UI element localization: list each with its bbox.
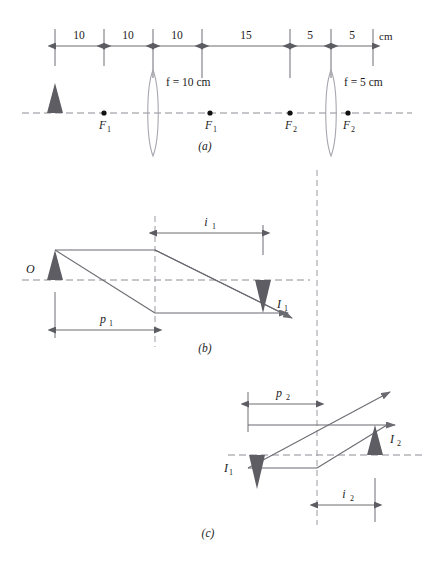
focal-point-dot-1	[101, 110, 106, 115]
image-1-label-sub: 1	[229, 468, 233, 477]
optics-figure: 10 10 10 15 5 5 cm f = 10 cm f = 5 cm	[0, 0, 434, 566]
image-1-label-sub: 1	[284, 304, 288, 313]
panel-a-label: (a)	[198, 140, 212, 153]
focal-point-dot-3	[287, 110, 292, 115]
i2-label-sub: 2	[350, 494, 354, 503]
focal-label-sub: 1	[213, 125, 217, 134]
image-1-triangle-b	[255, 280, 271, 313]
p2-label-base: p	[275, 386, 282, 400]
scale-label-2: 10	[122, 29, 134, 41]
scale-label-3: 10	[171, 29, 183, 41]
scale-bar: 10 10 10 15 5 5 cm	[55, 29, 393, 78]
image-2-label-c: I 2	[389, 432, 401, 448]
focal-label-sub: 2	[351, 125, 355, 134]
image-1-triangle-c	[249, 455, 265, 489]
p1-label-base: p	[99, 312, 106, 326]
panel-c: p 2 I 1 I 2	[202, 386, 424, 540]
focal-point-label-3: F 2	[284, 119, 297, 134]
i2-label: i 2	[342, 487, 354, 503]
lens-1-focal-label: f = 10 cm	[166, 76, 211, 88]
image-2-label-base: I	[389, 432, 395, 446]
image-2-label-sub: 2	[397, 439, 401, 448]
ray-chief-incident	[55, 250, 155, 313]
panel-c-label: (c)	[202, 527, 215, 540]
ray-c-diagonal-through-center	[248, 392, 390, 468]
p1-label: p 1	[99, 312, 113, 328]
panel-b: i 1 O I 1 p	[22, 215, 310, 355]
panel-b-label: (b)	[198, 342, 212, 355]
i1-label-base: i	[204, 215, 207, 229]
scale-label-1: 10	[73, 29, 85, 41]
scale-label-4: 15	[240, 29, 252, 41]
object-label-b: O	[26, 262, 35, 276]
focal-point-label-1: F 1	[98, 119, 111, 134]
focal-label-sub: 1	[107, 125, 111, 134]
focal-point-dot-4	[345, 110, 350, 115]
focal-label-base: F	[204, 119, 213, 131]
object-triangle-a	[47, 83, 63, 113]
focal-point-label-2: F 1	[204, 119, 217, 134]
image-1-label-c: I 1	[223, 461, 233, 477]
focal-point-label-4: F 2	[342, 119, 355, 134]
scale-label-5: 5	[307, 29, 313, 41]
focal-label-sub: 2	[293, 125, 297, 134]
i1-label-sub: 1	[212, 222, 216, 231]
focal-label-base: F	[342, 119, 351, 131]
i1-label: i 1	[204, 215, 216, 231]
focal-point-dot-2	[207, 110, 212, 115]
p1-label-sub: 1	[109, 319, 113, 328]
panel-a: f = 10 cm f = 5 cm F 1 F 1 F 2	[22, 70, 412, 156]
focal-label-base: F	[98, 119, 107, 131]
figure-canvas: 10 10 10 15 5 5 cm f = 10 cm f = 5 cm	[0, 0, 434, 566]
image-1-label-base: I	[276, 297, 282, 311]
p2-label-sub: 2	[286, 393, 290, 402]
p2-label: p 2	[275, 386, 290, 402]
lens-2-focal-label: f = 5 cm	[344, 76, 383, 88]
scale-label-6: 5	[349, 29, 355, 41]
scale-unit-label: cm	[379, 30, 393, 42]
i2-label-base: i	[342, 487, 345, 501]
focal-label-base: F	[284, 119, 293, 131]
object-triangle-b	[47, 250, 63, 280]
ray-refracted-extended	[155, 250, 292, 318]
image-1-label-b: I 1	[276, 297, 288, 313]
